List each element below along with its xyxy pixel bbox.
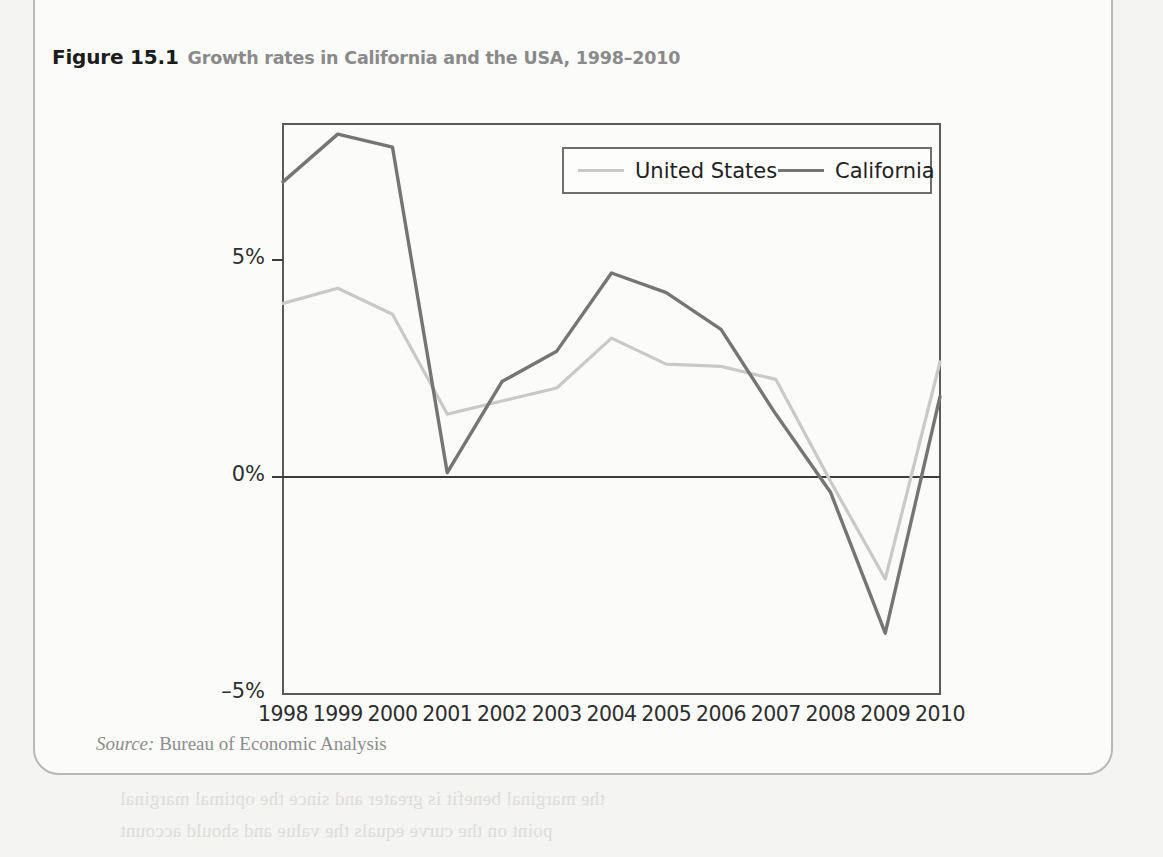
- x-axis-label-2004: 2004: [584, 702, 639, 726]
- legend-label: California: [835, 159, 935, 183]
- x-axis-label-1998: 1998: [256, 702, 311, 726]
- legend-entry-united-states[interactable]: United States: [578, 149, 777, 192]
- x-axis-label-2006: 2006: [694, 702, 749, 726]
- x-axis-label-2000: 2000: [365, 702, 420, 726]
- y-axis-label-2: –5%: [0, 679, 265, 703]
- x-axis-label-2005: 2005: [639, 702, 694, 726]
- x-axis-label-2008: 2008: [803, 702, 858, 726]
- x-axis-label-1999: 1999: [310, 702, 365, 726]
- source-label: Source:: [96, 733, 154, 754]
- source-text: Bureau of Economic Analysis: [159, 733, 386, 754]
- y-axis-label-1: 0%: [0, 462, 265, 486]
- series-line-united-states: [283, 288, 940, 579]
- legend-entry-california[interactable]: California: [778, 149, 935, 192]
- chart-legend: United StatesCalifornia: [562, 147, 932, 194]
- series-line-california: [283, 134, 940, 633]
- y-axis-label-0: 5%: [0, 245, 265, 269]
- x-axis-label-2003: 2003: [529, 702, 584, 726]
- legend-swatch-icon: [778, 169, 824, 172]
- chart-svg: [0, 0, 1163, 857]
- x-axis-label-2010: 2010: [913, 702, 968, 726]
- x-axis-label-2002: 2002: [475, 702, 530, 726]
- source-note: Source: Bureau of Economic Analysis: [96, 733, 387, 755]
- line-chart: [0, 0, 1163, 857]
- x-axis-label-2009: 2009: [858, 702, 913, 726]
- x-axis-label-2007: 2007: [748, 702, 803, 726]
- legend-label: United States: [635, 159, 777, 183]
- plot-frame: [283, 124, 940, 694]
- x-axis-label-2001: 2001: [420, 702, 475, 726]
- legend-swatch-icon: [578, 169, 624, 172]
